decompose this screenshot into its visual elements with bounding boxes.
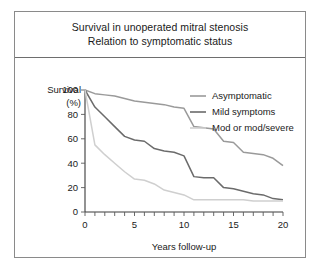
x-tick-label: 15 [228,219,239,230]
x-tick-label: 0 [82,219,87,230]
x-tick-label: 10 [179,219,190,230]
x-tick-label: 5 [132,219,137,230]
chart-title-line-1: Survival in unoperated mitral stenosis [72,21,248,35]
y-tick-label: 20 [67,182,78,193]
y-tick-label: 80 [67,109,78,120]
chart-title-block: Survival in unoperated mitral stenosis R… [15,12,305,58]
legend-label: Mild symptoms [212,106,276,117]
y-tick-label: 60 [67,133,78,144]
legend-label: Mod or mod/severe [212,122,294,133]
y-axis-label-line-1: Survival [47,84,81,95]
y-tick-label: 0 [73,206,78,217]
x-axis-ticks [85,212,283,216]
chart-legend: AsymptomaticMild symptomsMod or mod/seve… [190,90,294,133]
figure-frame: Survival in unoperated mitral stenosis R… [14,11,306,258]
x-axis-label: Years follow-up [152,241,217,252]
legend-label: Asymptomatic [212,90,272,101]
y-axis-label-line-2: (%) [66,97,81,108]
figure-container: Survival in unoperated mitral stenosis R… [0,0,321,272]
x-tick-label: 20 [278,219,289,230]
y-tick-label: 40 [67,158,78,169]
survival-curve-chart: 020406080100 05101520 Survival (%) Years… [15,58,305,258]
x-axis-tick-labels: 05101520 [82,219,288,230]
chart-title-line-2: Relation to symptomatic status [88,35,232,49]
plot-area: 020406080100 05101520 Survival (%) Years… [15,58,305,258]
y-axis-ticks [81,90,85,212]
